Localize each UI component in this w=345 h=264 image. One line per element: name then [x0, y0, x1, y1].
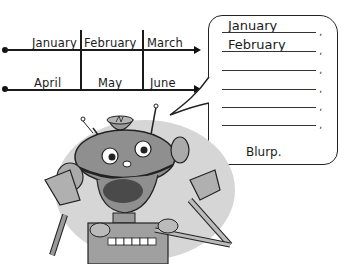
answer-line: January ,: [222, 19, 320, 33]
timeline-divider: [142, 30, 144, 90]
month-label: April: [34, 77, 61, 89]
month-label: May: [98, 77, 122, 89]
answer-line: ,: [222, 57, 320, 71]
timeline-divider: [80, 30, 82, 90]
robot-icon: [40, 95, 240, 264]
month-label: March: [147, 37, 183, 49]
month-label: February: [84, 37, 137, 49]
month-label: January: [32, 37, 77, 49]
answer-line: February ,: [222, 38, 320, 52]
arrow-right-icon: [194, 46, 201, 54]
blurp-text: Blurp.: [246, 145, 282, 159]
answer-line: ,: [222, 76, 320, 90]
